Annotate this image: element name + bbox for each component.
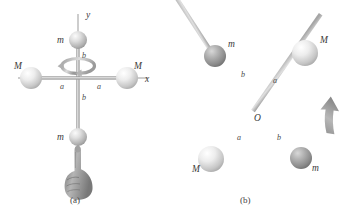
mass-sphere-bottom-m	[69, 128, 87, 146]
segment-label-a-left: a	[60, 82, 64, 91]
mass-sphere-top-m	[69, 31, 87, 49]
figure-background	[0, 0, 341, 214]
mass-label-lower-left-M: M	[191, 164, 201, 174]
mass-sphere-upper-right-M	[292, 40, 318, 66]
axis-label-y: y	[85, 10, 91, 20]
segment-label-a-right: a	[97, 82, 101, 91]
segment-label-a-upper-right: a	[273, 76, 277, 85]
mass-label-left-M: M	[13, 61, 23, 71]
center-label-O: O	[254, 113, 261, 123]
panel-b-caption: (b)	[240, 195, 251, 205]
mass-label-lower-right-m: m	[312, 163, 319, 173]
panel-a-caption: (a)	[70, 195, 80, 205]
rod-a-right	[78, 76, 120, 79]
segment-label-a-lower-left: a	[237, 133, 241, 142]
physics-figure: y x m M M m a a b b (a) m M M m	[0, 0, 341, 214]
segment-label-b-lower: b	[82, 93, 86, 102]
mass-sphere-upper-left-m	[204, 45, 226, 67]
mass-sphere-left-M	[20, 67, 42, 89]
axis-label-x: x	[144, 74, 150, 84]
mass-label-upper-right-M: M	[319, 35, 329, 45]
rod-b-lower	[76, 78, 79, 130]
segment-label-b-upper-left: b	[241, 70, 245, 79]
mass-label-upper-left-m: m	[228, 39, 235, 49]
segment-label-b-lower-right: b	[277, 133, 281, 142]
mass-label-top-m: m	[57, 35, 64, 45]
rod-a-left	[38, 76, 78, 79]
mass-sphere-lower-right-m	[290, 147, 312, 169]
mass-sphere-lower-left-M	[198, 146, 224, 172]
mass-label-bottom-m: m	[57, 132, 64, 142]
segment-label-b-upper: b	[82, 51, 86, 60]
mass-label-right-M: M	[133, 61, 143, 71]
